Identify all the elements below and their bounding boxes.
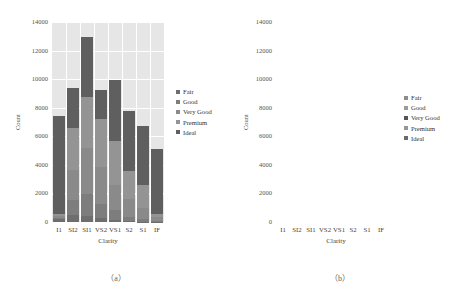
legend-label: Fair xyxy=(411,94,422,101)
legend-item-good[interactable]: Good xyxy=(176,98,212,105)
legend-swatch-icon xyxy=(404,136,408,140)
legend-item-premium[interactable]: Premium xyxy=(176,119,212,126)
y-axis-label-a: Count xyxy=(14,114,21,130)
y-tick-label: 12000 xyxy=(14,47,48,54)
chart-panel-b: Count 02000400060008000100001200014000 I… xyxy=(232,0,464,303)
legend-label: Ideal xyxy=(411,135,424,142)
y-tick-label: 0 xyxy=(14,218,48,225)
y-axis-label-b: Count xyxy=(242,114,249,130)
legend-b: FairGoodVery GoodPremiumIdeal xyxy=(404,94,440,145)
legend-label: Premium xyxy=(411,125,435,132)
x-tick-label: IF xyxy=(369,226,393,233)
bar-segment-premium xyxy=(137,185,148,208)
legend-label: Premium xyxy=(183,119,207,126)
legend-label: Good xyxy=(183,98,198,105)
y-tick-label: 14000 xyxy=(238,18,272,25)
bar-segment-fair xyxy=(67,215,78,222)
bar-segment-premium xyxy=(123,171,134,199)
legend-item-ideal[interactable]: Ideal xyxy=(404,135,440,142)
bar-segment-good xyxy=(67,200,78,215)
legend-label: Very Good xyxy=(183,108,212,115)
legend-a: FairGoodVery GoodPremiumIdeal xyxy=(176,88,212,139)
figure-two-stacked-bar-charts: Count 02000400060008000100001200014000 I… xyxy=(0,0,465,303)
bar-segment-very-good xyxy=(109,185,120,210)
bar-segment-ideal xyxy=(151,149,162,214)
legend-swatch-icon xyxy=(176,130,180,134)
x-axis-label-b: Clarity xyxy=(310,237,362,245)
legend-swatch-icon xyxy=(404,116,408,120)
chart-panel-a: Count 02000400060008000100001200014000 I… xyxy=(0,0,232,303)
bar-segment-fair xyxy=(123,221,134,222)
legend-label: Ideal xyxy=(183,129,196,136)
y-tick-label: 8000 xyxy=(238,104,272,111)
plot-area-a xyxy=(52,22,164,222)
legend-swatch-icon xyxy=(176,110,180,114)
legend-item-very-good[interactable]: Very Good xyxy=(176,108,212,115)
y-tick-label: 10000 xyxy=(238,75,272,82)
x-axis-label-a: Clarity xyxy=(82,237,134,245)
bar-segment-premium xyxy=(81,97,92,148)
y-tick-label: 14000 xyxy=(14,18,48,25)
bar-segment-fair xyxy=(95,218,106,222)
caption-b: （b） xyxy=(310,272,370,283)
bar-segment-very-good xyxy=(67,170,78,200)
x-tick-label: IF xyxy=(145,226,169,233)
bar-S1 xyxy=(137,126,148,222)
y-tick-label: 2000 xyxy=(238,189,272,196)
bar-segment-premium xyxy=(95,119,106,167)
bar-segment-good xyxy=(109,210,120,219)
y-tick-label: 10000 xyxy=(14,75,48,82)
bar-segment-premium xyxy=(109,141,120,185)
y-tick-label: 6000 xyxy=(238,132,272,139)
bar-segment-ideal xyxy=(95,90,106,119)
legend-swatch-icon xyxy=(176,100,180,104)
legend-item-fair[interactable]: Fair xyxy=(176,88,212,95)
bar-segment-fair xyxy=(81,216,92,222)
y-tick-label: 4000 xyxy=(238,161,272,168)
bar-SI2 xyxy=(67,88,78,222)
bar-VS1 xyxy=(109,80,120,222)
bar-segment-fair xyxy=(53,219,64,222)
bar-group-a xyxy=(52,22,164,222)
bar-segment-very-good xyxy=(81,148,92,194)
bar-segment-ideal xyxy=(137,126,148,185)
y-tick-label: 8000 xyxy=(14,104,48,111)
bar-VS2 xyxy=(95,90,106,222)
legend-swatch-icon xyxy=(404,96,408,100)
y-tick-label: 0 xyxy=(238,218,272,225)
y-tick-label: 6000 xyxy=(14,132,48,139)
bar-S2 xyxy=(123,111,134,222)
legend-label: Good xyxy=(411,104,426,111)
bar-segment-good xyxy=(95,204,106,218)
legend-item-ideal[interactable]: Ideal xyxy=(176,129,212,136)
bar-IF xyxy=(151,149,162,222)
grid-line-horizontal xyxy=(52,222,164,223)
y-tick-label: 2000 xyxy=(14,189,48,196)
legend-swatch-icon xyxy=(404,106,408,110)
bar-segment-ideal xyxy=(67,88,78,128)
y-tick-label: 4000 xyxy=(14,161,48,168)
bar-segment-ideal xyxy=(53,116,64,214)
legend-item-premium[interactable]: Premium xyxy=(404,125,440,132)
legend-swatch-icon xyxy=(176,120,180,124)
bar-I1 xyxy=(53,116,64,222)
legend-item-very-good[interactable]: Very Good xyxy=(404,114,440,121)
bar-segment-ideal xyxy=(81,37,92,97)
bar-segment-very-good xyxy=(123,199,134,217)
legend-item-fair[interactable]: Fair xyxy=(404,94,440,101)
bar-SI1 xyxy=(81,37,92,222)
legend-label: Fair xyxy=(183,88,194,95)
bar-segment-good xyxy=(81,194,92,216)
bar-segment-very-good xyxy=(95,167,106,204)
bar-segment-ideal xyxy=(109,80,120,141)
legend-item-good[interactable]: Good xyxy=(404,104,440,111)
caption-a: （a） xyxy=(86,272,146,283)
bar-segment-ideal xyxy=(123,111,134,171)
bar-segment-fair xyxy=(109,220,120,222)
bar-segment-very-good xyxy=(137,208,148,219)
legend-swatch-icon xyxy=(404,126,408,130)
y-tick-label: 12000 xyxy=(238,47,272,54)
legend-swatch-icon xyxy=(176,90,180,94)
bar-segment-premium xyxy=(67,128,78,170)
legend-label: Very Good xyxy=(411,114,440,121)
